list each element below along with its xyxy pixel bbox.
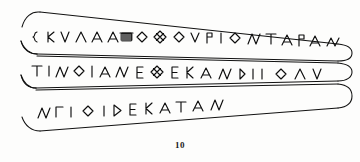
glyph-omicron-6 <box>83 106 93 116</box>
glyph-omicron-3 <box>230 33 240 43</box>
glyph-delta-2 <box>201 68 211 78</box>
band-2-right-cap <box>338 63 352 81</box>
band-2 <box>21 41 352 88</box>
band-1-right-cap <box>338 44 352 61</box>
glyph-kappa-2 <box>187 67 193 78</box>
glyph-omicron-5 <box>276 69 286 79</box>
band-1 <box>21 12 352 61</box>
band-3-right-cap <box>338 84 352 108</box>
glyph-sigma <box>33 32 37 42</box>
glyph-alpha-1 <box>282 35 292 45</box>
glyph-alpha-3 <box>100 67 110 77</box>
figure-container: 10 <box>0 0 360 162</box>
glyph-mu <box>38 108 50 118</box>
glyph-pi <box>56 107 63 117</box>
glyph-nu-3 <box>56 67 68 77</box>
glyph-omicron-2 <box>174 32 184 42</box>
line-2-glyphs <box>32 66 321 79</box>
glyph-kappa-3 <box>146 103 152 114</box>
glyph-upsilon <box>61 32 69 42</box>
glyph-tau-2 <box>32 66 42 76</box>
band-3-bottom-edge <box>40 108 338 131</box>
glyph-lambda-1 <box>76 32 86 42</box>
line-1-glyphs <box>33 31 339 46</box>
glyph-nu-5 <box>219 69 231 79</box>
glyph-nu-2 <box>327 38 339 46</box>
figure-caption-number: 10 <box>0 140 360 150</box>
glyph-upsilon-2 <box>191 33 199 42</box>
glyph-epsilon-2 <box>172 67 178 78</box>
glyph-lambda-3 <box>295 69 305 79</box>
band-1-left-hook <box>22 12 40 27</box>
glyph-damaged-hatched <box>120 33 133 41</box>
glyph-kappa <box>48 32 54 42</box>
glyph-nu-6 <box>211 100 223 110</box>
glyph-delta <box>108 32 118 42</box>
glyph-delta-d-2 <box>114 105 121 116</box>
band-3-left-scallop <box>22 117 40 131</box>
glyph-omicron-4 <box>74 66 84 76</box>
glyph-omicron-1 <box>137 32 147 42</box>
glyph-tau-3 <box>176 102 186 112</box>
glyph-tau-1 <box>266 34 276 44</box>
glyph-alpha-5 <box>193 101 203 111</box>
glyph-lambda-2 <box>92 32 102 42</box>
glyph-theta <box>154 31 166 43</box>
glyph-theta-2 <box>151 66 163 78</box>
band-3 <box>21 75 352 131</box>
line-3-glyphs <box>38 100 223 118</box>
glyph-nu-4 <box>116 67 128 77</box>
glyph-rho-1 <box>207 33 212 43</box>
glyph-epsilon-3 <box>130 104 136 115</box>
glyph-upsilon-3 <box>313 69 321 79</box>
glyph-epsilon-1 <box>137 67 143 78</box>
inscription-drawing <box>0 0 360 162</box>
glyph-alpha-4 <box>160 103 170 113</box>
glyph-delta-d-1 <box>240 69 245 79</box>
